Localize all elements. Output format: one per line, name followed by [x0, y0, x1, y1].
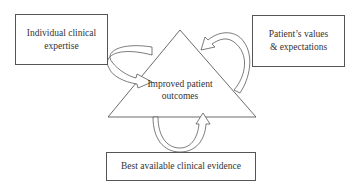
improved-outcomes-line2: outcomes — [140, 90, 220, 102]
individual-expertise-box: Individual clinical expertise — [15, 14, 108, 65]
outcome-triangle — [108, 30, 256, 117]
clinical-evidence-box: Best available clinical evidence — [106, 152, 256, 181]
individual-expertise-label: Individual clinical expertise — [26, 27, 97, 53]
patient-values-label: Patient’s values & expectations — [265, 28, 332, 54]
clinical-evidence-label: Best available clinical evidence — [121, 160, 241, 173]
bottom-arrow-icon — [153, 113, 210, 152]
improved-outcomes-label: Improved patient outcomes — [140, 78, 220, 102]
improved-outcomes-line1: Improved patient — [140, 78, 220, 90]
patient-values-box: Patient’s values & expectations — [252, 15, 345, 67]
